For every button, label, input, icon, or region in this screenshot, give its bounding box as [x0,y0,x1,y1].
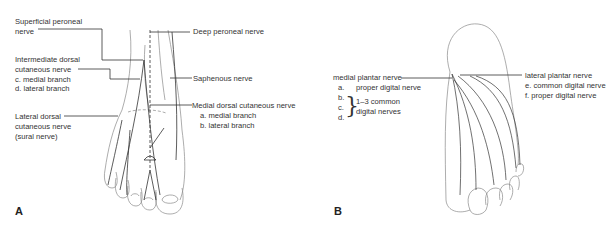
label-line: b. lateral branch [192,121,295,131]
item-text: proper digital nerve [356,83,421,93]
label-item-a: a. proper digital nerve [338,83,344,93]
label-common-digital-nerves: 1–3 common digital nerves [356,97,401,117]
label-saphenous-nerve: Saphenous nerve [193,74,253,84]
label-line: nerve [15,27,82,37]
item-text: common digital nerve [533,81,605,90]
label-line: Medial dorsal cutaneous nerve [192,101,295,111]
label-line: Intermediate dorsal [15,55,80,65]
label-intermediate-dorsal-cutaneous-nerve: Intermediate dorsal cutaneous nerve c. m… [15,55,80,94]
label-medial-plantar-nerve: medial plantar nerve [333,73,402,83]
label-line: c. medial branch [15,75,80,85]
label-medial-dorsal-cutaneous-nerve: Medial dorsal cutaneous nerve a. medial … [192,101,295,130]
item-key: a. [338,83,344,92]
label-deep-peroneal-nerve: Deep peroneal nerve [193,27,264,37]
label-line: cutaneous nerve [15,65,80,75]
leader-lines-b [401,75,522,78]
label-item-b: b. [338,93,344,103]
label-item-d: d. [338,113,344,123]
panel-letter-a: A [15,205,23,217]
label-superficial-peroneal-nerve: Superficial peroneal nerve [15,17,82,37]
item-text: proper digital nerve [531,91,596,100]
label-line: Lateral dorsal [15,112,71,122]
foot-b-nerves [452,74,520,195]
label-line: lateral plantar nerve [525,71,606,81]
item-key: e. [525,81,531,90]
item-key: f. [525,91,529,100]
label-lateral-plantar-nerve: lateral plantar nerve e. common digital … [525,71,606,100]
anatomy-drawing [0,0,615,227]
label-lateral-dorsal-cutaneous-nerve: Lateral dorsal cutaneous nerve (sural ne… [15,112,71,141]
label-line: 1–3 common [356,97,401,107]
label-line: digital nerves [356,107,401,117]
label-item-c: c. [338,103,344,113]
label-line: cutaneous nerve [15,122,71,132]
label-line: d. lateral branch [15,84,80,94]
label-line: a. medial branch [192,111,295,121]
foot-a-nerves [108,30,177,200]
panel-letter-b: B [334,205,342,217]
label-line: Superficial peroneal [15,17,82,27]
label-line: (sural nerve) [15,132,71,142]
foot-a-outline [104,30,184,214]
foot-b-outline [445,24,523,215]
